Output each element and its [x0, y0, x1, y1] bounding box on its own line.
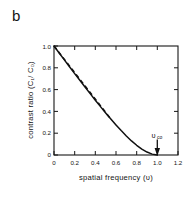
- x-axis-title: spatial frequency (υ): [79, 173, 153, 182]
- y-axis-ticks-left: [54, 46, 58, 155]
- y-tick-label-4: 0.8: [42, 64, 51, 71]
- x-tick-label-2: 0.4: [91, 159, 100, 166]
- x-tick-label-3: 0.6: [112, 159, 121, 166]
- y-tick-label-1: 0.2: [42, 129, 51, 136]
- x-axis-ticks-top: [75, 46, 158, 50]
- y-axis-ticks-right: [174, 68, 178, 133]
- cutoff-arrow: [155, 140, 160, 157]
- x-tick-label-0: 0: [52, 159, 56, 166]
- y-tick-label-3: 0.6: [42, 86, 51, 93]
- contrast-ratio-plot: υ co 0 0.2 0.4 0.6 0.8 1.0 1.2 0 0.2 0.4…: [0, 0, 191, 197]
- y-tick-label-5: 1.0: [42, 43, 51, 50]
- contrast-ratio-curve: [54, 46, 157, 155]
- x-axis-ticks-bottom: [54, 151, 178, 155]
- cutoff-label: υ co: [152, 131, 163, 141]
- y-tick-label-2: 0.4: [42, 108, 51, 115]
- y-tick-labels: 0 0.2 0.4 0.6 0.8 1.0: [42, 43, 51, 159]
- figure-panel-b: υ co 0 0.2 0.4 0.6 0.8 1.0 1.2 0 0.2 0.4…: [0, 0, 191, 197]
- x-tick-labels: 0 0.2 0.4 0.6 0.8 1.0 1.2: [52, 159, 183, 166]
- x-tick-label-1: 0.2: [70, 159, 79, 166]
- y-axis-title: contrast ratio (C₁/ C₀): [26, 61, 35, 139]
- x-tick-label-4: 0.8: [132, 159, 141, 166]
- cutoff-label-symbol: υ: [152, 131, 156, 140]
- y-tick-label-0: 0: [48, 151, 52, 158]
- x-tick-label-6: 1.2: [174, 159, 183, 166]
- cutoff-label-subscript: co: [157, 134, 163, 140]
- x-tick-label-5: 1.0: [153, 159, 162, 166]
